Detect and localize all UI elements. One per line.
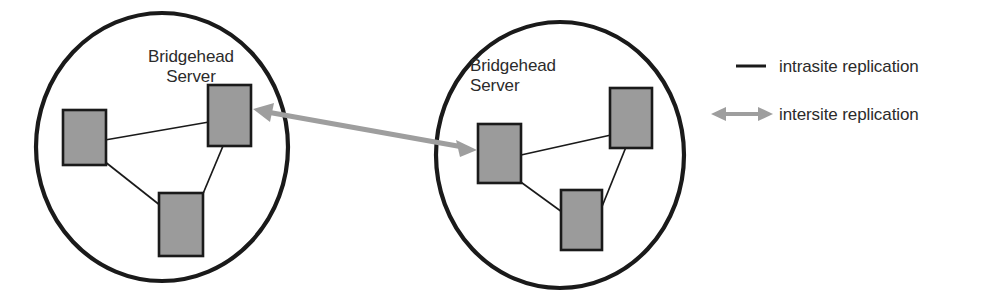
- legend-double-arrow-head-left-icon: [711, 107, 726, 121]
- intrasite-link-bridgehead-to-south: [518, 180, 562, 212]
- intersite-arrow-shaft: [267, 112, 463, 147]
- right-server-northeast[interactable]: [610, 88, 652, 148]
- intrasite-link-west-to-south: [104, 161, 161, 206]
- intrasite-link-bridgehead-to-northeast: [521, 135, 611, 155]
- intrasite-link-west-to-bridgehead: [105, 122, 209, 140]
- site-right-bridgehead-label: Bridgehead Server: [470, 56, 585, 96]
- right-server-south[interactable]: [561, 190, 602, 250]
- left-server-south[interactable]: [159, 193, 203, 256]
- left-server-bridgehead[interactable]: [208, 85, 251, 146]
- legend-item-label-intersite: intersite replication: [779, 105, 919, 125]
- legend-item-label-intrasite: intrasite replication: [779, 57, 919, 77]
- legend-double-arrow-head-right-icon: [758, 107, 773, 121]
- diagram-canvas: Bridgehead Server Bridgehead Server intr…: [0, 0, 983, 292]
- right-server-bridgehead[interactable]: [478, 124, 521, 183]
- diagram-svg: [0, 0, 983, 292]
- legend: [711, 66, 773, 121]
- intersite-arrowhead-left: [253, 103, 274, 122]
- site-left-bridgehead-label: Bridgehead Server: [131, 47, 251, 87]
- intersite-arrowhead-right: [456, 140, 477, 157]
- legend-intersite-marker: [711, 107, 773, 121]
- left-server-west[interactable]: [63, 110, 106, 165]
